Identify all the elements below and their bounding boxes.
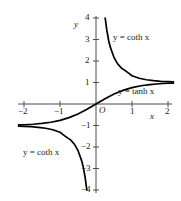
x-axis-label: x [150, 112, 154, 121]
ytick-label--3: −3 [81, 164, 91, 173]
origin-label: O [99, 106, 106, 115]
curve-label-tanh: y = tanh x [118, 87, 154, 96]
hyperbolic-functions-figure: y x O −2 −1 1 2 4 3 2 1 −1 −2 −3 −4 y = … [0, 0, 181, 201]
curve-label-coth-upper: y = coth x [113, 33, 149, 42]
ytick-label-1: 1 [85, 78, 90, 87]
xtick-label--2: −2 [18, 107, 28, 116]
xtick-label--1: −1 [54, 107, 64, 116]
ytick-label--2: −2 [81, 142, 91, 151]
ytick-label-2: 2 [85, 56, 90, 65]
y-axis-label: y [74, 20, 78, 29]
xtick-label-1: 1 [130, 107, 135, 116]
curve-coth-negative-branch [19, 126, 87, 190]
curve-coth-positive-branch [105, 18, 173, 82]
ytick-label--1: −1 [81, 121, 91, 130]
ytick-label-4: 4 [85, 13, 90, 22]
xtick-label-2: 2 [165, 107, 170, 116]
ytick-label--4: −4 [81, 185, 91, 194]
ytick-label-3: 3 [85, 35, 90, 44]
curve-label-coth-lower: y = coth x [23, 148, 59, 157]
